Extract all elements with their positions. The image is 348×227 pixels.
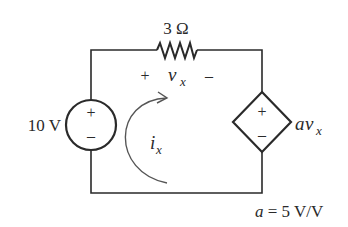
dependent-source-gain-sub: x bbox=[315, 123, 322, 138]
dependent-source-plus: + bbox=[257, 103, 266, 120]
vx-plus-sign: + bbox=[140, 67, 149, 84]
resistor-label: 3 Ω bbox=[163, 19, 188, 38]
gain-note-value: = 5 V/V bbox=[264, 202, 325, 221]
vx-variable: v bbox=[168, 64, 177, 85]
wire-bottom bbox=[91, 150, 262, 193]
vx-minus-sign: – bbox=[204, 67, 214, 84]
current-variable: i bbox=[150, 132, 155, 153]
gain-note: a = 5 V/V bbox=[255, 202, 324, 221]
voltage-source-label: 10 V bbox=[28, 116, 62, 135]
current-arrow-icon bbox=[125, 98, 167, 183]
dependent-source-gain-v: v bbox=[305, 113, 314, 134]
dependent-source-gain-a: a bbox=[295, 113, 305, 134]
voltage-source-plus: + bbox=[86, 104, 95, 121]
current-subscript: x bbox=[155, 142, 162, 157]
dependent-source-minus: – bbox=[257, 126, 267, 143]
dependent-source-icon bbox=[233, 92, 291, 152]
voltage-source-minus: – bbox=[86, 127, 96, 144]
current-arrowhead-icon bbox=[157, 92, 167, 103]
circuit-diagram: 3 Ω + v x – + – 10 V + – a v x i x a = 5… bbox=[0, 0, 348, 227]
vx-subscript: x bbox=[179, 74, 186, 89]
resistor-icon bbox=[157, 43, 197, 58]
gain-note-variable: a bbox=[255, 202, 264, 221]
